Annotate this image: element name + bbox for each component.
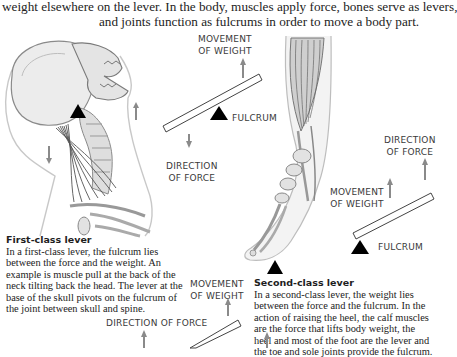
leg-and-foot-illustration xyxy=(236,36,336,266)
intro-line-1: weight elsewhere on the lever. In the bo… xyxy=(2,0,457,14)
second-class-caption: Second-class lever In a second-class lev… xyxy=(254,277,434,357)
skull-and-neck-illustration xyxy=(0,36,160,236)
first-class-direction-of-force-label: DIRECTION OF FORCE xyxy=(166,160,218,184)
arrow-down-icon xyxy=(46,146,52,164)
second-class-title: Second-class lever xyxy=(254,277,434,289)
second-class-fulcrum-label: FULCRUM xyxy=(378,241,423,253)
first-class-title: First-class lever xyxy=(6,234,186,246)
third-lever-diagram-partial xyxy=(140,298,280,348)
second-class-direction-of-force-label: DIRECTION OF FORCE xyxy=(384,134,436,158)
fulcrum-icon xyxy=(267,260,283,274)
second-class-body: In a second-class lever, the weight lies… xyxy=(254,289,434,357)
arrow-up-icon xyxy=(133,102,139,120)
intro-line-2: and joints function as fulcrums in order… xyxy=(99,14,419,29)
fulcrum-icon xyxy=(70,104,86,118)
